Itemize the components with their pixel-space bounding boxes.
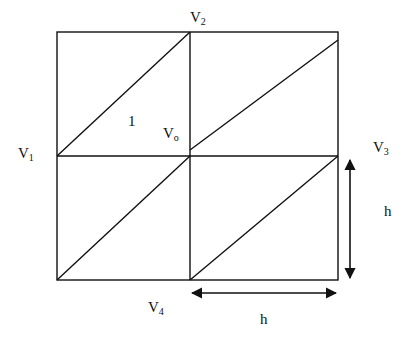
label-width-h: h	[260, 312, 268, 327]
grid-diagram	[0, 0, 401, 338]
label-v1: V1	[18, 146, 34, 163]
diagonal-top-right	[190, 40, 338, 150]
diagonal-bottom-right	[190, 156, 338, 280]
label-v3: V3	[373, 140, 389, 157]
label-v4: V4	[148, 300, 164, 317]
label-v2: V2	[190, 10, 206, 27]
label-v0: Vo	[163, 126, 179, 143]
label-height-h: h	[384, 204, 392, 219]
label-triangle-1: 1	[128, 114, 136, 129]
diagonal-bottom-left	[57, 156, 190, 280]
